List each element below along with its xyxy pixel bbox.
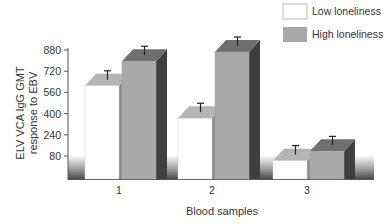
x-tick-label: 2 <box>209 184 215 196</box>
y-axis-label-line2: response to EBV <box>27 71 39 154</box>
y-tick-label: 240 <box>43 129 61 141</box>
x-tick-label: 1 <box>116 184 122 196</box>
legend-label-high: High loneliness <box>312 28 383 40</box>
bar-high-loneliness-sample-2 <box>215 37 260 179</box>
legend-label-low: Low loneliness <box>312 5 381 17</box>
y-axis-label-line1: ELV VCA IgG GMT <box>14 66 26 160</box>
y-tick-label: 880 <box>43 44 61 56</box>
legend-swatch-high <box>283 27 307 42</box>
bar-high-loneliness-sample-1 <box>122 46 167 179</box>
y-tick-label: 80 <box>49 150 61 162</box>
bar-high-loneliness-sample-3 <box>310 136 355 179</box>
x-tick-labels: 123 <box>116 184 310 196</box>
legend-swatch-low <box>283 4 307 19</box>
x-axis-label: Blood samples <box>186 205 259 217</box>
x-tick-label: 3 <box>304 184 310 196</box>
y-axis: 80240400560720880 <box>43 44 68 180</box>
bars-group <box>85 37 355 179</box>
y-tick-label: 720 <box>43 65 61 77</box>
bar-chart: 80240400560720880 123 ELV VCA IgG GMT re… <box>0 0 392 224</box>
y-tick-label: 400 <box>43 108 61 120</box>
y-tick-label: 560 <box>43 86 61 98</box>
legend: Low loneliness High loneliness <box>283 4 383 42</box>
